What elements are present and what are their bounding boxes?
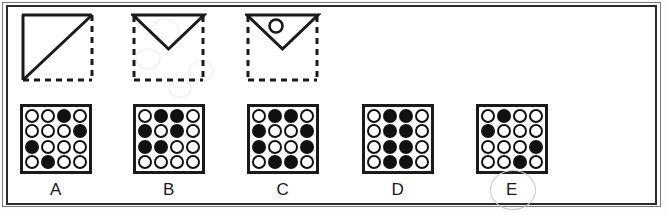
dot-open xyxy=(170,155,184,169)
dot-open xyxy=(186,124,200,138)
prompt-figure-square-with-diagonal xyxy=(20,12,96,85)
dot-filled xyxy=(399,155,413,169)
dot-filled xyxy=(481,124,495,138)
dot-open xyxy=(367,124,381,138)
dot-open xyxy=(252,155,266,169)
dot-open xyxy=(497,155,511,169)
dot-grid-cells xyxy=(366,108,430,170)
dot-open xyxy=(138,109,152,123)
dot-grid-cells xyxy=(251,108,315,170)
dot-grid-cells xyxy=(137,108,201,170)
option-letter: A xyxy=(50,180,62,199)
dot-open xyxy=(25,124,39,138)
dot-open xyxy=(513,140,527,154)
inner-frame-border xyxy=(6,5,657,205)
dot-open xyxy=(73,109,87,123)
dot-open xyxy=(186,109,200,123)
dot-open xyxy=(415,109,429,123)
option-letter: E xyxy=(506,180,518,199)
dot-filled xyxy=(399,140,413,154)
dot-filled xyxy=(300,124,314,138)
option-label-d: D xyxy=(358,179,438,201)
dot-open xyxy=(154,155,168,169)
dot-open xyxy=(57,155,71,169)
option-letter: B xyxy=(163,180,175,199)
dot-grid-a[interactable] xyxy=(20,104,92,174)
dot-open xyxy=(154,124,168,138)
dot-open xyxy=(57,124,71,138)
dot-filled xyxy=(41,155,55,169)
dot-filled xyxy=(170,109,184,123)
dot-filled xyxy=(300,140,314,154)
dot-open xyxy=(415,140,429,154)
prompt-figure-downward-triangle xyxy=(131,12,207,85)
dot-filled xyxy=(529,140,543,154)
dot-filled xyxy=(399,109,413,123)
dot-filled xyxy=(383,124,397,138)
option-label-e: E xyxy=(472,179,552,201)
dot-filled xyxy=(497,109,511,123)
dot-filled xyxy=(73,124,87,138)
option-label-a: A xyxy=(16,179,96,201)
dot-open xyxy=(57,140,71,154)
dot-open xyxy=(300,155,314,169)
dot-filled xyxy=(513,155,527,169)
dot-filled xyxy=(25,140,39,154)
dot-filled xyxy=(252,124,266,138)
dot-filled xyxy=(284,155,298,169)
dot-filled xyxy=(268,109,282,123)
answer-option-a[interactable]: A xyxy=(16,104,96,202)
answer-option-c[interactable]: C xyxy=(243,104,323,202)
dot-open xyxy=(513,109,527,123)
dot-open xyxy=(284,140,298,154)
prompt-figure-downward-triangle-with-circle xyxy=(245,12,321,85)
dot-open xyxy=(252,109,266,123)
dot-grid-c[interactable] xyxy=(247,104,319,174)
dot-open xyxy=(138,155,152,169)
option-letter: C xyxy=(277,180,290,199)
answer-option-d[interactable]: D xyxy=(358,104,438,202)
dot-open xyxy=(41,124,55,138)
option-label-b: B xyxy=(129,179,209,201)
dot-open xyxy=(497,140,511,154)
dot-open xyxy=(25,155,39,169)
dot-grid-d[interactable] xyxy=(362,104,434,174)
dot-filled xyxy=(284,109,298,123)
dot-open xyxy=(481,155,495,169)
dot-open xyxy=(367,109,381,123)
dot-open xyxy=(367,155,381,169)
dot-open xyxy=(529,109,543,123)
option-letter: D xyxy=(392,180,405,199)
puzzle-page: A B C D E xyxy=(0,0,669,215)
dot-grid-b[interactable] xyxy=(133,104,205,174)
dot-filled xyxy=(399,124,413,138)
dot-open xyxy=(481,140,495,154)
dot-open xyxy=(73,140,87,154)
dot-open xyxy=(41,140,55,154)
dot-filled xyxy=(383,155,397,169)
dot-open xyxy=(415,155,429,169)
dot-open xyxy=(481,109,495,123)
dot-filled xyxy=(154,109,168,123)
dot-filled xyxy=(138,124,152,138)
dot-open xyxy=(268,140,282,154)
dot-open xyxy=(41,109,55,123)
dot-filled xyxy=(268,155,282,169)
dot-filled xyxy=(138,140,152,154)
dot-filled xyxy=(383,109,397,123)
option-label-c: C xyxy=(243,179,323,201)
dot-open xyxy=(513,124,527,138)
dot-filled xyxy=(57,109,71,123)
answer-option-e[interactable]: E xyxy=(472,104,552,202)
dot-filled xyxy=(154,140,168,154)
dot-open xyxy=(284,124,298,138)
dot-open xyxy=(268,124,282,138)
dot-filled xyxy=(170,124,184,138)
dot-open xyxy=(73,155,87,169)
dot-filled xyxy=(252,140,266,154)
answer-option-b[interactable]: B xyxy=(129,104,209,202)
dot-grid-e[interactable] xyxy=(476,104,548,174)
dot-open xyxy=(300,109,314,123)
dot-grid-cells xyxy=(24,108,88,170)
dot-open xyxy=(529,124,543,138)
